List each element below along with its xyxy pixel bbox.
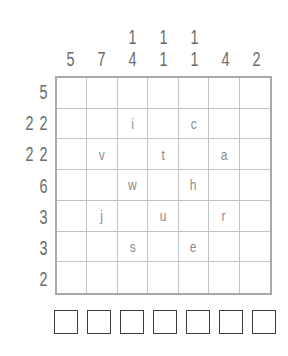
grid-cell-r6-c3[interactable]: s [118,232,148,263]
grid-cell-r5-c3[interactable] [118,201,148,232]
grid-cell-r4-c1[interactable] [57,170,87,201]
answer-box-1[interactable] [54,310,78,334]
clue-number: 1 [190,26,198,48]
row-clue-2: 22 [0,107,48,138]
grid-cell-r3-c5[interactable] [179,139,209,170]
clue-number: 1 [159,48,167,70]
grid-cell-r4-c6[interactable] [209,170,239,201]
grid-cell-r1-c4[interactable] [148,78,178,109]
grid-cell-r4-c5[interactable]: h [179,170,209,201]
grid-cell-r3-c1[interactable] [57,139,87,170]
grid-cell-r5-c2[interactable]: j [87,201,117,232]
cell-letter: w [128,176,137,193]
cell-letter: c [190,115,196,132]
grid-cell-r6-c6[interactable] [209,232,239,263]
grid-cell-r5-c5[interactable] [179,201,209,232]
grid-cell-r3-c4[interactable]: t [148,139,178,170]
clue-number: 1 [190,48,198,70]
cell-letter: j [101,207,104,224]
grid-cell-r4-c7[interactable] [240,170,270,201]
grid-cell-r1-c5[interactable] [179,78,209,109]
cell-letter: h [190,176,197,193]
grid-cell-r7-c7[interactable] [240,262,270,293]
grid-cell-r6-c5[interactable]: e [179,232,209,263]
grid-cell-r5-c1[interactable] [57,201,87,232]
grid-cell-r7-c6[interactable] [209,262,239,293]
grid-cell-r6-c4[interactable] [148,232,178,263]
cell-letter: e [190,238,197,255]
row-clue-1: 5 [0,76,48,107]
grid-cell-r7-c2[interactable] [87,262,117,293]
grid-cell-r7-c3[interactable] [118,262,148,293]
grid-cell-r2-c3[interactable]: i [118,109,148,140]
grid-cell-r4-c3[interactable]: w [118,170,148,201]
clue-number: 6 [39,175,46,197]
clue-number: 3 [39,237,46,259]
grid-cell-r7-c5[interactable] [179,262,209,293]
grid-cell-r3-c6[interactable]: a [209,139,239,170]
cell-letter: r [222,207,226,224]
clue-number: 3 [39,206,46,228]
answer-box-6[interactable] [219,310,243,334]
grid-cell-r1-c7[interactable] [240,78,270,109]
answer-box-3[interactable] [120,310,144,334]
clue-number: 2 [252,48,260,70]
answer-box-7[interactable] [252,310,276,334]
grid-cell-r2-c5[interactable]: c [179,109,209,140]
row-clue-3: 22 [0,139,48,170]
column-clue-6: 4 [210,14,241,70]
clue-number: 1 [128,26,136,48]
column-clue-3: 14 [117,14,148,70]
grid-cell-r7-c4[interactable] [148,262,178,293]
grid-cell-r1-c1[interactable] [57,78,87,109]
cell-letter: t [161,146,164,163]
clue-number: 4 [221,48,229,70]
row-clues: 522226332 [0,76,48,295]
grid-cell-r1-c3[interactable] [118,78,148,109]
grid-cell-r2-c6[interactable] [209,109,239,140]
clue-number: 5 [66,48,74,70]
clue-number: 2 [39,143,46,165]
grid-cell-r3-c2[interactable]: v [87,139,117,170]
grid-cell-r6-c2[interactable] [87,232,117,263]
column-clue-4: 11 [148,14,179,70]
row-clue-4: 6 [0,170,48,201]
grid-cell-r2-c1[interactable] [57,109,87,140]
clue-number: 5 [39,81,46,103]
answer-box-5[interactable] [186,310,210,334]
grid-cell-r2-c2[interactable] [87,109,117,140]
column-clue-1: 5 [55,14,86,70]
grid-cell-r6-c7[interactable] [240,232,270,263]
grid-cell-r4-c2[interactable] [87,170,117,201]
clue-number: 7 [97,48,105,70]
grid-cell-r3-c3[interactable] [118,139,148,170]
grid-cell-r5-c6[interactable]: r [209,201,239,232]
answer-box-4[interactable] [153,310,177,334]
puzzle-grid: icvtawhjurse [55,76,272,295]
column-clue-5: 11 [179,14,210,70]
grid-cell-r7-c1[interactable] [57,262,87,293]
grid-cell-r3-c7[interactable] [240,139,270,170]
column-clue-2: 7 [86,14,117,70]
clue-number: 2 [39,112,46,134]
row-clue-6: 3 [0,232,48,263]
grid-cell-r2-c7[interactable] [240,109,270,140]
grid-cell-r5-c4[interactable]: u [148,201,178,232]
clue-number: 4 [128,48,136,70]
clue-number: 2 [25,143,32,165]
grid-cell-r2-c4[interactable] [148,109,178,140]
cell-letter: v [99,146,105,163]
row-clue-5: 3 [0,201,48,232]
grid-cell-r6-c1[interactable] [57,232,87,263]
answer-boxes [54,310,276,334]
clue-number: 2 [39,268,46,290]
grid-cell-r5-c7[interactable] [240,201,270,232]
cell-letter: i [131,115,134,132]
grid-cell-r1-c6[interactable] [209,78,239,109]
cell-letter: s [130,238,136,255]
grid-cell-r1-c2[interactable] [87,78,117,109]
column-clue-7: 2 [241,14,272,70]
grid-cell-r4-c4[interactable] [148,170,178,201]
cell-letter: a [221,146,228,163]
answer-box-2[interactable] [87,310,111,334]
